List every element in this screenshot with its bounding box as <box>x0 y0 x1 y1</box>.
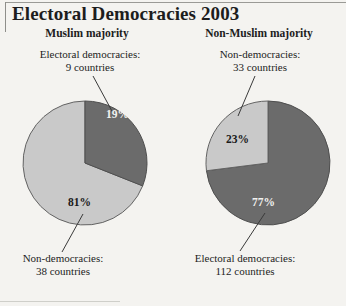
annotation-right-top: Non-democracies: 33 countries <box>196 48 324 74</box>
annotation-right-top-line2: 33 countries <box>196 61 324 74</box>
annotation-left-bottom-line2: 38 countries <box>0 265 126 278</box>
annotation-left-bottom-line1: Non-democracies: <box>23 252 104 264</box>
data-label-left-19: 19% <box>106 108 129 120</box>
annotation-right-bottom-line2: 112 countries <box>172 265 318 278</box>
annotation-right-top-line1: Non-democracies: <box>220 48 301 60</box>
data-label-right-23: 23% <box>226 133 249 145</box>
data-label-left-81: 81% <box>68 196 91 208</box>
annotation-left-top: Electoral democracies: 9 countries <box>20 48 160 74</box>
annotation-left-bottom: Non-democracies: 38 countries <box>0 252 126 278</box>
data-label-right-77: 77% <box>252 196 275 208</box>
figure-page: Electoral Democracies 2003 Muslim majori… <box>0 0 346 306</box>
annotation-left-top-line2: 9 countries <box>20 61 160 74</box>
annotation-right-bottom-line1: Electoral democracies: <box>195 252 295 264</box>
annotation-right-bottom: Electoral democracies: 112 countries <box>172 252 318 278</box>
annotation-left-top-line1: Electoral democracies: <box>40 48 140 60</box>
